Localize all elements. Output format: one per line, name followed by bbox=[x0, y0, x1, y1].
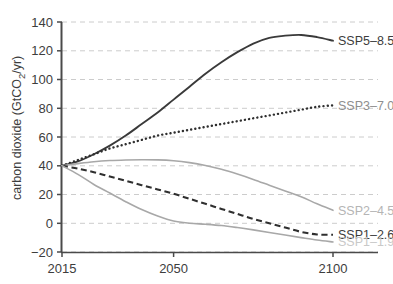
y-tick-label: 20 bbox=[39, 187, 53, 202]
x-tick-label: 2050 bbox=[159, 261, 188, 276]
y-tick-label: 0 bbox=[46, 216, 53, 231]
x-tick-label: 2100 bbox=[319, 261, 348, 276]
y-tick-label: 40 bbox=[39, 158, 53, 173]
x-tick-label: 2015 bbox=[48, 261, 77, 276]
y-tick-label: 100 bbox=[31, 72, 53, 87]
y-tick-label: −20 bbox=[31, 245, 53, 260]
co2-emissions-line-chart: −20020406080100120140 201520502100 SSP5–… bbox=[0, 0, 393, 284]
y-tick-label: 120 bbox=[31, 43, 53, 58]
chart-canvas: −20020406080100120140 201520502100 SSP5–… bbox=[0, 0, 393, 284]
y-tick-label: 140 bbox=[31, 15, 53, 30]
series-label-ssp3-7-0: SSP3–7.0 bbox=[338, 99, 393, 113]
chart-background bbox=[0, 0, 393, 284]
series-label-ssp2-4-5: SSP2–4.5 bbox=[338, 204, 393, 218]
y-tick-label: 60 bbox=[39, 130, 53, 145]
series-label-ssp1-1-9: SSP1–1.9 bbox=[338, 235, 393, 249]
series-label-ssp5-8-5: SSP5–8.5 bbox=[338, 34, 393, 48]
y-tick-label: 80 bbox=[39, 101, 53, 116]
